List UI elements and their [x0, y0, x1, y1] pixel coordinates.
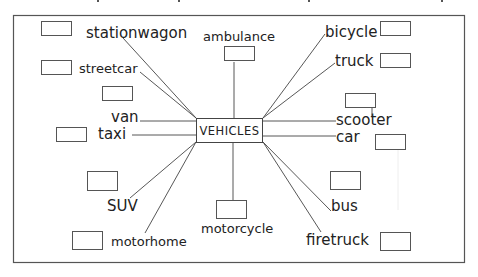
label-scooter: scooter: [336, 111, 393, 129]
label-taxi: taxi: [98, 125, 126, 143]
answer-box-bus[interactable]: [331, 172, 361, 190]
answer-box-car[interactable]: [376, 135, 406, 150]
center-node: VEHICLES: [197, 119, 263, 143]
answer-box-truck[interactable]: [381, 54, 411, 68]
label-firetruck: firetruck: [306, 231, 369, 249]
connector-streetcar: [140, 72, 196, 118]
label-truck: truck: [335, 52, 374, 70]
connector-bus: [263, 142, 331, 211]
label-motorcycle: motorcycle: [201, 221, 273, 236]
label-bus: bus: [331, 197, 358, 215]
connector-suv: [130, 142, 196, 198]
connector-bicycle: [263, 34, 325, 118]
label-ambulance: ambulance: [203, 29, 275, 44]
cropped-text-fragments: [97, 0, 443, 2]
vehicles-word-web: VEHICLES stationwagon streetcar van taxi…: [0, 0, 478, 277]
answer-box-motorhome[interactable]: [73, 232, 103, 250]
answer-box-motorcycle[interactable]: [217, 201, 247, 219]
answer-box-stationwagon[interactable]: [42, 22, 72, 36]
answer-box-taxi[interactable]: [57, 128, 87, 142]
label-streetcar: streetcar: [79, 61, 138, 76]
label-van: van: [111, 108, 139, 126]
label-suv: SUV: [107, 197, 139, 215]
center-label: VEHICLES: [199, 124, 259, 138]
label-motorhome: motorhome: [111, 234, 187, 249]
answer-box-scooter[interactable]: [346, 94, 376, 108]
answer-box-bicycle[interactable]: [381, 22, 411, 36]
answer-box-firetruck[interactable]: [381, 233, 411, 251]
answer-box-suv[interactable]: [88, 172, 118, 191]
connector-motorhome: [145, 142, 196, 233]
answer-box-streetcar[interactable]: [42, 61, 72, 75]
label-stationwagon: stationwagon: [86, 24, 187, 42]
label-car: car: [336, 128, 360, 146]
connector-truck: [263, 63, 335, 118]
connector-firetruck: [263, 142, 321, 232]
answer-box-van[interactable]: [103, 87, 133, 101]
connector-stationwagon: [123, 38, 196, 118]
answer-box-ambulance[interactable]: [225, 47, 255, 61]
label-bicycle: bicycle: [325, 23, 377, 41]
